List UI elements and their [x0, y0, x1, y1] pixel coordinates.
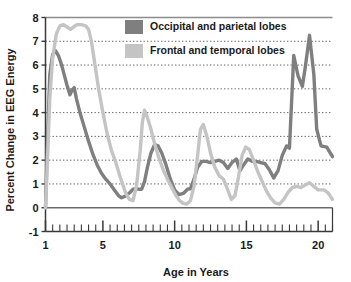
y-tick-label: 6 — [32, 59, 38, 71]
x-tick-label: 15 — [240, 239, 252, 251]
series-line-occipital-parietal — [46, 35, 333, 207]
y-tick-label: 0 — [32, 202, 38, 214]
x-axis-title: Age in Years — [163, 266, 229, 278]
legend-label-occipital-parietal: Occipital and parietal lobes — [150, 20, 287, 32]
x-tick-label: 5 — [100, 239, 106, 251]
x-tick-label: 20 — [312, 239, 324, 251]
x-tick-label: 10 — [169, 239, 181, 251]
eeg-energy-line-chart: 876543210-1 15101520 Age in Years Percen… — [0, 0, 351, 282]
legend-label-frontal-temporal: Frontal and temporal lobes — [150, 44, 285, 56]
y-axis-title: Percent Change in EEG Energy — [4, 48, 16, 212]
x-tick-label: 1 — [42, 239, 48, 251]
y-axis-tick-labels: 876543210-1 — [29, 12, 40, 238]
chart-canvas: 876543210-1 15101520 Age in Years Percen… — [0, 0, 351, 282]
y-tick-label: -1 — [29, 226, 39, 238]
x-axis-tick-labels: 15101520 — [42, 239, 324, 251]
y-tick-label: 7 — [32, 35, 38, 47]
y-tick-label: 5 — [32, 83, 38, 95]
y-tick-label: 3 — [32, 130, 38, 142]
y-tick-label: 8 — [32, 12, 38, 24]
y-tick-label: 1 — [32, 178, 38, 190]
legend-swatch-frontal-temporal — [125, 44, 143, 58]
y-tick-label: 4 — [32, 107, 39, 119]
legend-swatch-occipital-parietal — [125, 20, 143, 34]
y-tick-label: 2 — [32, 154, 38, 166]
x-axis-ticks — [46, 221, 333, 232]
chart-legend: Occipital and parietal lobes Frontal and… — [125, 20, 287, 58]
